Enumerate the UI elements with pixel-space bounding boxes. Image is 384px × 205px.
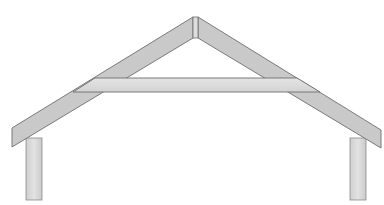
ridge — [193, 17, 198, 38]
collar-tie — [73, 78, 320, 92]
right-post — [350, 138, 366, 200]
left-post — [26, 138, 42, 200]
truss-diagram — [0, 0, 384, 205]
truss-svg — [0, 0, 384, 205]
